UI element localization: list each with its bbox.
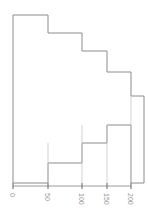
column-separators: [13, 96, 131, 183]
plot-canvas: [0, 0, 148, 218]
spine-plot-outline: [13, 15, 144, 183]
spine-plot-figure: 0 50 100 150 200: [0, 0, 148, 218]
